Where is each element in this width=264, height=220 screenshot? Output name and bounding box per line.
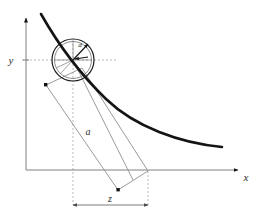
radius-label: d — [78, 41, 82, 49]
y-axis-label: y — [8, 54, 14, 66]
disk-spoke-lower-left — [56, 60, 73, 68]
guide-lines — [22, 40, 148, 205]
horizontal-offset-label: z — [107, 193, 112, 204]
rod-length-label: a — [86, 126, 91, 137]
figure-container: y x a z d — [0, 0, 264, 220]
disk-spoke-lower-left-2 — [60, 60, 73, 74]
rod-axis-line — [73, 60, 133, 180]
rod-corner-marker-upper — [44, 83, 47, 86]
rod-corner-marker-lower — [116, 188, 119, 191]
x-axis-label: x — [243, 171, 249, 183]
normal-vector — [75, 57, 88, 59]
rod — [44, 60, 148, 191]
diagram-canvas: y x a z d — [0, 0, 264, 220]
rod-body — [46, 68, 148, 190]
